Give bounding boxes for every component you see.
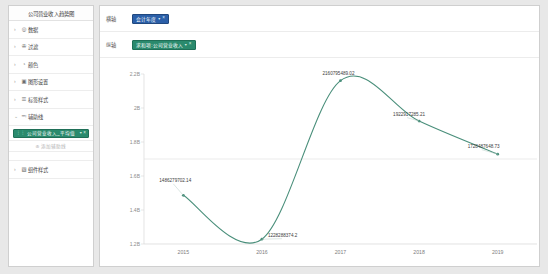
svg-text:2018: 2018 bbox=[413, 249, 425, 255]
sidebar-spacer bbox=[9, 152, 93, 161]
y-axis-shelf: 纵轴 求和项:公司营业收入 ▾ × bbox=[100, 32, 539, 58]
y-axis-field-pill[interactable]: 求和项:公司营业收入 ▾ × bbox=[132, 40, 196, 50]
svg-text:1728487648.73: 1728487648.73 bbox=[468, 144, 500, 149]
sidebar-item-label-style[interactable]: › ☰ 标签样式 bbox=[9, 91, 93, 109]
sidebar-item-label: 辅助线 bbox=[28, 113, 43, 120]
chevron-down-icon[interactable]: ▾ bbox=[158, 17, 160, 21]
close-icon[interactable]: × bbox=[83, 131, 86, 136]
svg-text:2160795489.02: 2160795489.02 bbox=[323, 71, 355, 76]
series-line[interactable] bbox=[183, 76, 497, 243]
series-points[interactable] bbox=[182, 79, 499, 240]
line-chart[interactable]: 2.2B2B1.8B1.6B1.4B1.2B 20152016201720182… bbox=[100, 58, 540, 266]
svg-text:2015: 2015 bbox=[178, 249, 190, 255]
y-axis-shelf-label: 纵轴 bbox=[106, 41, 132, 48]
page-title: 公司营业收入趋势图 bbox=[9, 6, 93, 21]
add-guideline-button[interactable]: ⊕ 添加辅助线 bbox=[9, 141, 93, 152]
sidebar-item-label: 图形设置 bbox=[28, 78, 48, 85]
svg-text:2017: 2017 bbox=[335, 249, 347, 255]
svg-text:2016: 2016 bbox=[256, 249, 268, 255]
selected-field-label: 公司营业收入_平均值 bbox=[27, 130, 79, 136]
guideline-field-container: ⋮⋮ 公司营业收入_平均值 ▾ × bbox=[9, 126, 93, 141]
svg-text:1.4B: 1.4B bbox=[130, 207, 141, 213]
plus-icon: ⊕ bbox=[36, 144, 40, 149]
data-labels: 1486279702.141228288374.22160795489.0219… bbox=[159, 71, 500, 239]
svg-text:1.8B: 1.8B bbox=[130, 139, 141, 145]
sidebar-item-label: 组件样式 bbox=[28, 166, 48, 173]
close-icon[interactable]: × bbox=[162, 16, 165, 21]
svg-text:1486279702.14: 1486279702.14 bbox=[159, 178, 191, 183]
sidebar-item-label: 过滤 bbox=[28, 43, 38, 50]
y-axis-field-label: 求和项:公司营业收入 bbox=[136, 41, 183, 48]
x-axis-shelf: 横轴 会计年度 ▾ × bbox=[100, 6, 539, 32]
sidebar-item-label: 标签样式 bbox=[28, 96, 48, 103]
chevron-down-icon[interactable]: ▾ bbox=[80, 131, 82, 135]
config-sidebar: 公司营业收入趋势图 › ◎ 数据 › ✇ 过滤 › ◔ 颜色 › ▣ 图形设置 … bbox=[8, 5, 94, 267]
sidebar-item-data[interactable]: › ◎ 数据 bbox=[9, 21, 93, 39]
x-axis-field-pill[interactable]: 会计年度 ▾ × bbox=[132, 14, 169, 24]
sidebar-item-filter[interactable]: › ✇ 过滤 bbox=[9, 39, 93, 57]
label-icon: ☰ bbox=[20, 97, 28, 102]
chart-svg: 2.2B2B1.8B1.6B1.4B1.2B 20152016201720182… bbox=[100, 58, 540, 266]
sidebar-item-guideline[interactable]: ⌄ ≕ 辅助线 bbox=[9, 109, 93, 127]
sidebar-item-component-style[interactable]: › ▧ 组件样式 bbox=[9, 161, 93, 179]
sidebar-item-label: 颜色 bbox=[28, 61, 38, 68]
sidebar-item-label: 数据 bbox=[28, 26, 38, 33]
svg-text:2.2B: 2.2B bbox=[130, 71, 141, 77]
svg-text:2019: 2019 bbox=[492, 249, 504, 255]
label-leader-lines bbox=[173, 118, 497, 240]
sidebar-item-color[interactable]: › ◔ 颜色 bbox=[9, 56, 93, 74]
sidebar-item-shape-settings[interactable]: › ▣ 图形设置 bbox=[9, 74, 93, 92]
app-window: 公司营业收入趋势图 › ◎ 数据 › ✇ 过滤 › ◔ 颜色 › ▣ 图形设置 … bbox=[0, 0, 548, 274]
close-icon[interactable]: × bbox=[189, 42, 192, 47]
drag-handle-icon[interactable]: ⋮⋮ bbox=[16, 131, 25, 136]
filter-icon: ✇ bbox=[20, 44, 28, 49]
database-icon: ◎ bbox=[20, 27, 28, 32]
svg-text:1228288374.2: 1228288374.2 bbox=[268, 233, 298, 238]
add-guideline-label: 添加辅助线 bbox=[41, 143, 66, 149]
svg-text:1.2B: 1.2B bbox=[130, 241, 141, 247]
component-style-icon: ▧ bbox=[20, 167, 28, 172]
palette-icon: ◔ bbox=[20, 62, 28, 67]
svg-text:2B: 2B bbox=[134, 105, 141, 111]
svg-text:1.6B: 1.6B bbox=[130, 173, 141, 179]
x-axis-ticks: 20152016201720182019 bbox=[178, 249, 504, 255]
x-axis-field-label: 会计年度 bbox=[136, 15, 156, 22]
svg-text:1922917285.21: 1922917285.21 bbox=[393, 112, 425, 117]
y-axis-ticks: 2.2B2B1.8B1.6B1.4B1.2B bbox=[130, 71, 144, 247]
chevron-down-icon[interactable]: ▾ bbox=[185, 43, 187, 47]
chart-panel: 横轴 会计年度 ▾ × 纵轴 求和项:公司营业收入 ▾ × 2.2B2B1.8B… bbox=[99, 5, 540, 267]
shape-settings-icon: ▣ bbox=[20, 79, 28, 84]
x-axis-shelf-label: 横轴 bbox=[106, 15, 132, 22]
selected-field-chip[interactable]: ⋮⋮ 公司营业收入_平均值 ▾ × bbox=[13, 129, 89, 139]
guideline-icon: ≕ bbox=[20, 114, 28, 119]
